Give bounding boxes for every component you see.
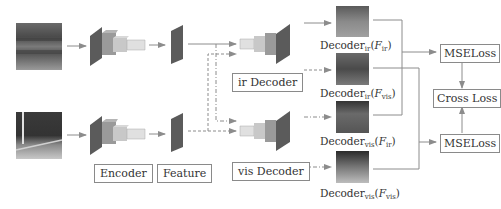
caption-arg-sub: ir bbox=[382, 45, 388, 53]
caption-arg: F bbox=[379, 135, 386, 147]
visible-input-image bbox=[16, 112, 62, 159]
bottom-mse-loss-box: MSELoss bbox=[440, 134, 500, 153]
feature-label: Feature bbox=[157, 164, 212, 183]
caption-sub: ir bbox=[365, 45, 371, 53]
caption-arg: F bbox=[379, 187, 386, 199]
feature-map-top bbox=[171, 25, 183, 64]
output-image-vis-from-ir bbox=[336, 101, 369, 133]
ir-decoder-label: ir Decoder bbox=[232, 73, 303, 92]
cross-loss-box: Cross Loss bbox=[433, 89, 501, 108]
caption-arg: F bbox=[375, 87, 382, 99]
caption-base: Decoder bbox=[320, 187, 365, 199]
output-caption: Decoderir(Fvis) bbox=[320, 87, 396, 103]
caption-base: Decoder bbox=[320, 87, 365, 99]
caption-arg-sub: ir bbox=[386, 141, 392, 149]
caption-base: Decoder bbox=[320, 135, 365, 147]
caption-base: Decoder bbox=[320, 39, 365, 51]
top-mse-loss-box: MSELoss bbox=[440, 44, 500, 63]
output-image-vis-from-vis bbox=[336, 151, 369, 183]
output-caption: Decodervis(Fir) bbox=[320, 135, 396, 151]
caption-sub: vis bbox=[365, 141, 375, 149]
caption-arg-sub: vis bbox=[382, 93, 392, 101]
output-image-ir-from-ir bbox=[336, 6, 369, 37]
caption-arg: F bbox=[375, 39, 382, 51]
vis-decoder-label: vis Decoder bbox=[232, 162, 310, 181]
encoder-label: Encoder bbox=[94, 164, 153, 183]
vis-decoder-network-icon bbox=[240, 111, 290, 151]
encoder-network-icon-bottom bbox=[90, 116, 145, 155]
feature-map-bottom bbox=[171, 113, 183, 152]
output-image-ir-from-vis bbox=[336, 53, 369, 85]
caption-sub: ir bbox=[365, 93, 371, 101]
infrared-input-image bbox=[16, 23, 62, 70]
caption-sub: vis bbox=[365, 193, 375, 201]
caption-arg-sub: vis bbox=[386, 193, 396, 201]
output-caption: Decoderir(Fir) bbox=[320, 39, 392, 55]
arrow-vis-feature-to-ir-decoder bbox=[208, 54, 236, 131]
line-output-3-to-top-mse bbox=[373, 52, 402, 115]
ir-decoder-network-icon bbox=[240, 24, 290, 64]
encoder-network-icon-top bbox=[90, 27, 145, 66]
line-output-2-to-bottom-mse bbox=[373, 68, 419, 142]
output-caption: Decodervis(Fvis) bbox=[320, 187, 400, 203]
